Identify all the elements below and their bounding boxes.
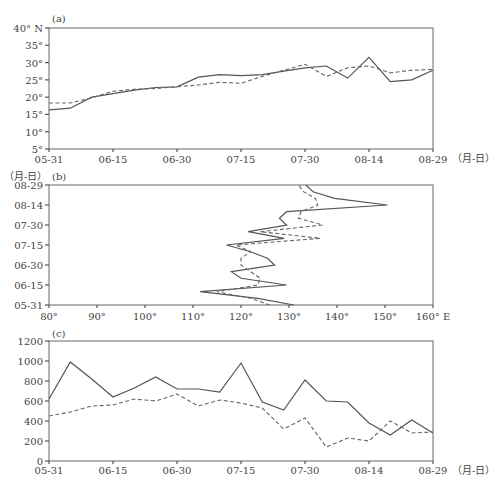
- x-tick-label: 05-31: [35, 154, 64, 165]
- x-tick-label: 06-15: [99, 465, 128, 476]
- panel-a-solid-series: [49, 57, 433, 110]
- y-tick-label: 35°: [25, 40, 43, 51]
- x-tick-label: 06-30: [163, 465, 192, 476]
- panel-b-solid-series: [200, 185, 387, 305]
- y-tick-label: 200: [24, 436, 43, 447]
- x-tick-label: 05-31: [35, 465, 64, 476]
- y-tick-label: 06-15: [14, 280, 43, 291]
- chart-figure: (a) 5°10°15°20°25°30°35°40° N 05-3106-15…: [0, 0, 498, 487]
- panel-c-label: (c): [52, 328, 66, 339]
- x-tick-label: 06-15: [99, 154, 128, 165]
- x-tick-label: 130°: [277, 311, 301, 322]
- panel-c-dashed-series: [49, 394, 433, 447]
- panel-b-dashed-series: [217, 185, 323, 305]
- panel-a-x-axis: 05-3106-1506-3007-1507-3008-1408-29: [35, 149, 448, 165]
- x-tick-label: 160° E: [416, 311, 451, 322]
- panel-c-intensity-chart: (c) 020040060080010001200 05-3106-1506-3…: [18, 328, 496, 476]
- panel-c-x-unit: （月-日）: [452, 465, 495, 476]
- x-tick-label: 120°: [229, 311, 253, 322]
- y-tick-label: 1000: [18, 356, 43, 367]
- x-tick-label: 08-14: [355, 154, 384, 165]
- panel-b-label: (b): [52, 171, 66, 182]
- y-tick-label: 1200: [18, 336, 43, 347]
- panel-a-dashed-series: [49, 64, 433, 103]
- x-tick-label: 90°: [88, 311, 106, 322]
- x-tick-label: 100°: [133, 311, 157, 322]
- panel-c-y-axis: 020040060080010001200: [18, 336, 49, 467]
- x-tick-label: 06-30: [163, 154, 192, 165]
- panel-a-label: (a): [52, 13, 66, 24]
- y-tick-label: 08-14: [14, 200, 43, 211]
- x-tick-label: 140°: [325, 311, 349, 322]
- y-tick-label: 15°: [25, 109, 43, 120]
- panel-b-x-axis: 80°90°100°110°120°130°140°150°160° E: [40, 305, 450, 322]
- y-tick-label: 07-30: [14, 220, 43, 231]
- panel-a-latitude-chart: (a) 5°10°15°20°25°30°35°40° N 05-3106-15…: [13, 13, 495, 165]
- x-tick-label: 07-15: [227, 465, 256, 476]
- panel-a-frame: [49, 28, 433, 149]
- x-tick-label: 08-14: [355, 465, 384, 476]
- x-tick-label: 110°: [181, 311, 205, 322]
- panel-a-x-unit: （月-日）: [452, 153, 495, 164]
- y-tick-label: 400: [24, 416, 43, 427]
- y-tick-label: 40° N: [13, 23, 43, 34]
- y-tick-label: 600: [24, 396, 43, 407]
- panel-b-longitude-chart: （月-日） (b) 05-3106-1506-3007-1507-3008-14…: [4, 171, 450, 322]
- x-tick-label: 08-29: [419, 154, 448, 165]
- panel-c-x-axis: 05-3106-1506-3007-1507-3008-1408-29: [35, 461, 448, 476]
- y-tick-label: 25°: [25, 75, 43, 86]
- x-tick-label: 150°: [373, 311, 397, 322]
- x-tick-label: 80°: [40, 311, 58, 322]
- y-tick-label: 07-15: [14, 240, 43, 251]
- y-tick-label: 30°: [25, 58, 43, 69]
- y-tick-label: 08-29: [14, 180, 43, 191]
- panel-a-y-axis: 5°10°15°20°25°30°35°40° N: [13, 23, 49, 155]
- y-tick-label: 10°: [25, 127, 43, 138]
- panel-c-frame: [49, 341, 433, 461]
- x-tick-label: 07-30: [291, 465, 320, 476]
- y-tick-label: 20°: [25, 92, 43, 103]
- y-tick-label: 05-31: [14, 300, 43, 311]
- panel-c-solid-series: [49, 362, 433, 435]
- x-tick-label: 08-29: [419, 465, 448, 476]
- x-tick-label: 07-15: [227, 154, 256, 165]
- y-tick-label: 06-30: [14, 260, 43, 271]
- y-tick-label: 800: [24, 376, 43, 387]
- x-tick-label: 07-30: [291, 154, 320, 165]
- panel-b-y-axis: 05-3106-1506-3007-1507-3008-1408-29: [14, 180, 49, 311]
